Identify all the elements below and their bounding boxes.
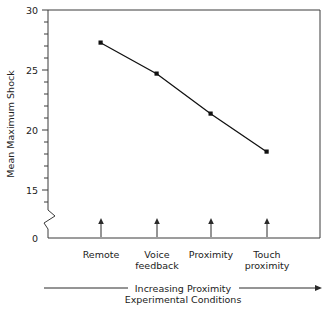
direction-arrow-head-icon xyxy=(315,285,322,291)
data-point-remote xyxy=(99,41,103,45)
direction-label: Increasing Proximity xyxy=(135,283,232,294)
category-arrow-proximity xyxy=(208,218,214,237)
category-arrow-touch-proximity xyxy=(264,218,270,237)
data-series xyxy=(99,41,269,154)
y-axis-break-symbol xyxy=(44,205,55,238)
x-axis-title: Experimental Conditions xyxy=(125,294,242,305)
category-arrow-remote xyxy=(98,218,104,237)
data-point-voice-feedback xyxy=(155,72,159,76)
y-tick-label-0: 0 xyxy=(32,233,38,244)
y-axis-minor-ticks xyxy=(44,22,48,202)
chart-figure: 30 25 20 15 0 Mean Maximum Sh xyxy=(0,0,332,312)
category-label-voice: Voice xyxy=(144,249,169,260)
y-tick-label-20: 20 xyxy=(26,125,38,136)
series-line xyxy=(101,43,267,152)
category-label-proximity: Proximity xyxy=(189,249,234,260)
data-point-proximity xyxy=(209,112,213,116)
category-label-remote: Remote xyxy=(83,249,120,260)
y-axis-title: Mean Maximum Shock xyxy=(5,70,16,178)
category-labels: Remote Voice feedback Proximity Touch pr… xyxy=(83,249,290,271)
y-tick-label-15: 15 xyxy=(26,185,38,196)
category-arrow-voice-feedback xyxy=(154,218,160,237)
category-label-touch: Touch xyxy=(252,249,280,260)
plot-frame xyxy=(44,10,320,238)
direction-annotation: Increasing Proximity xyxy=(44,283,322,294)
y-tick-label-30: 30 xyxy=(26,5,38,16)
category-label-feedback: feedback xyxy=(135,260,179,271)
line-chart: 30 25 20 15 0 Mean Maximum Sh xyxy=(0,0,332,312)
y-tick-label-25: 25 xyxy=(26,65,38,76)
category-label-touch-proximity: proximity xyxy=(245,260,290,271)
category-arrows xyxy=(98,218,270,237)
data-point-touch-proximity xyxy=(265,150,269,154)
y-axis-ticks: 30 25 20 15 0 xyxy=(26,5,48,244)
